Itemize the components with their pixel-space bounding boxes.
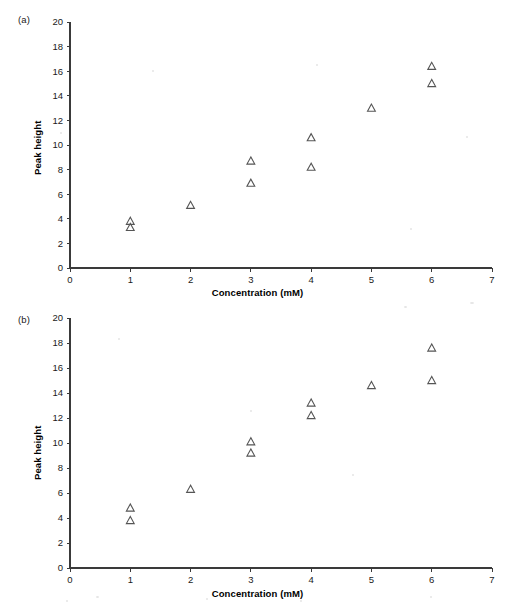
x-tick-label: 0: [67, 574, 72, 585]
y-tick-label: 16: [52, 362, 63, 373]
paper-speck: [466, 136, 468, 138]
data-point-marker: [368, 104, 376, 111]
data-point-marker: [368, 382, 376, 389]
data-point-marker: [428, 80, 436, 87]
y-tick-label: 18: [52, 41, 63, 52]
paper-speck: [352, 474, 354, 476]
data-point-marker: [247, 179, 255, 186]
x-tick-label: 3: [248, 274, 253, 285]
chart-panel-b: (b) Peak height 024681012141618200123456…: [0, 300, 515, 610]
y-tick-label: 14: [52, 90, 63, 101]
y-tick-label: 8: [58, 462, 63, 473]
paper-speck: [300, 600, 302, 602]
data-point-marker: [428, 344, 436, 351]
y-tick-label: 12: [52, 115, 63, 126]
y-tick-label: 20: [52, 16, 63, 27]
paper-speck: [410, 228, 412, 230]
paper-speck: [60, 132, 62, 134]
y-tick-label: 18: [52, 337, 63, 348]
x-tick-label: 2: [188, 574, 193, 585]
x-tick-label: 4: [308, 274, 313, 285]
x-tick-label: 1: [128, 574, 133, 585]
y-tick-label: 2: [58, 537, 63, 548]
data-point-marker: [187, 201, 195, 208]
x-axis-title-a: Concentration (mM): [0, 287, 515, 298]
x-tick-label: 5: [369, 574, 374, 585]
x-tick-label: 7: [489, 274, 494, 285]
data-point-marker: [247, 157, 255, 164]
figure-container: (a) Peak height 024681012141618200123456…: [0, 0, 515, 610]
data-point-marker: [428, 377, 436, 384]
x-tick-label: 5: [369, 274, 374, 285]
x-tick-label: 7: [489, 574, 494, 585]
scatter-plot-a: 0246810121416182001234567: [0, 0, 515, 300]
scatter-plot-b: 0246810121416182001234567: [0, 300, 515, 610]
data-point-marker: [126, 504, 134, 511]
x-axis-title-b: Concentration (mM): [0, 588, 515, 599]
paper-speck: [152, 70, 154, 72]
paper-speck: [118, 338, 120, 340]
x-tick-label: 3: [248, 574, 253, 585]
y-tick-label: 2: [58, 238, 63, 249]
x-tick-label: 2: [188, 274, 193, 285]
paper-speck: [66, 600, 68, 602]
x-tick-label: 6: [429, 274, 434, 285]
data-point-marker: [307, 163, 315, 170]
y-tick-label: 10: [52, 437, 63, 448]
x-tick-label: 4: [308, 574, 313, 585]
y-tick-label: 0: [58, 262, 63, 273]
y-tick-label: 20: [52, 312, 63, 323]
y-tick-label: 10: [52, 139, 63, 150]
data-point-marker: [247, 449, 255, 456]
paper-speck: [250, 410, 252, 412]
data-point-marker: [187, 485, 195, 492]
data-point-marker: [307, 134, 315, 141]
paper-speck: [470, 302, 474, 304]
y-tick-label: 14: [52, 387, 63, 398]
y-tick-label: 4: [58, 213, 63, 224]
y-tick-label: 16: [52, 66, 63, 77]
data-point-marker: [126, 517, 134, 524]
x-tick-label: 0: [67, 274, 72, 285]
y-tick-label: 8: [58, 164, 63, 175]
paper-speck: [404, 306, 407, 308]
data-point-marker: [307, 399, 315, 406]
paper-speck: [206, 598, 208, 600]
y-tick-label: 6: [58, 487, 63, 498]
data-point-marker: [247, 438, 255, 445]
paper-speck: [316, 64, 318, 66]
y-tick-label: 4: [58, 512, 63, 523]
x-tick-label: 1: [128, 274, 133, 285]
paper-speck: [96, 596, 99, 598]
y-tick-label: 0: [58, 562, 63, 573]
y-tick-label: 12: [52, 412, 63, 423]
chart-panel-a: (a) Peak height 024681012141618200123456…: [0, 0, 515, 300]
data-point-marker: [307, 412, 315, 419]
data-point-marker: [428, 62, 436, 69]
x-tick-label: 6: [429, 574, 434, 585]
y-tick-label: 6: [58, 189, 63, 200]
paper-speck: [430, 596, 432, 598]
